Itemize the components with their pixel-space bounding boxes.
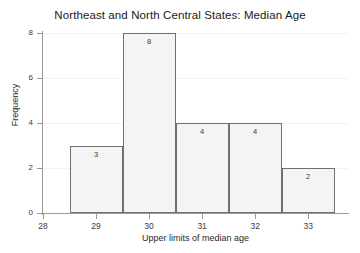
bar-value-label: 4 bbox=[235, 128, 275, 136]
chart-title: Northeast and North Central States: Medi… bbox=[0, 9, 360, 21]
x-tick-label: 32 bbox=[240, 221, 270, 231]
x-tick-label: 28 bbox=[28, 221, 58, 231]
gridline bbox=[43, 78, 348, 79]
y-tick-label: 8 bbox=[0, 29, 33, 37]
x-tick-label: 30 bbox=[134, 221, 164, 231]
x-tick-mark bbox=[149, 213, 150, 219]
x-tick-label: 33 bbox=[293, 221, 323, 231]
y-axis-label: Frequency bbox=[10, 65, 20, 145]
bar-value-label: 3 bbox=[76, 151, 116, 159]
x-axis-line bbox=[42, 213, 349, 214]
y-tick-label: 0 bbox=[0, 209, 33, 217]
plot-area: 38442 bbox=[43, 33, 348, 213]
y-tick-label: 2 bbox=[0, 164, 33, 172]
x-tick-mark bbox=[43, 213, 44, 219]
bar-value-label: 8 bbox=[129, 38, 169, 46]
y-tick-mark bbox=[37, 168, 43, 169]
y-tick-mark bbox=[37, 123, 43, 124]
y-tick-mark bbox=[37, 33, 43, 34]
gridline bbox=[43, 33, 348, 34]
histogram-bar bbox=[229, 123, 282, 213]
y-tick-mark bbox=[37, 78, 43, 79]
histogram-bar bbox=[176, 123, 229, 213]
x-tick-label: 31 bbox=[187, 221, 217, 231]
x-tick-mark bbox=[202, 213, 203, 219]
x-axis-label: Upper limits of median age bbox=[43, 233, 348, 243]
x-tick-label: 29 bbox=[81, 221, 111, 231]
bar-value-label: 4 bbox=[182, 128, 222, 136]
x-tick-mark bbox=[308, 213, 309, 219]
x-tick-mark bbox=[96, 213, 97, 219]
histogram-chart: Northeast and North Central States: Medi… bbox=[0, 0, 360, 253]
bar-value-label: 2 bbox=[288, 173, 328, 181]
x-tick-mark bbox=[255, 213, 256, 219]
histogram-bar bbox=[123, 33, 176, 213]
